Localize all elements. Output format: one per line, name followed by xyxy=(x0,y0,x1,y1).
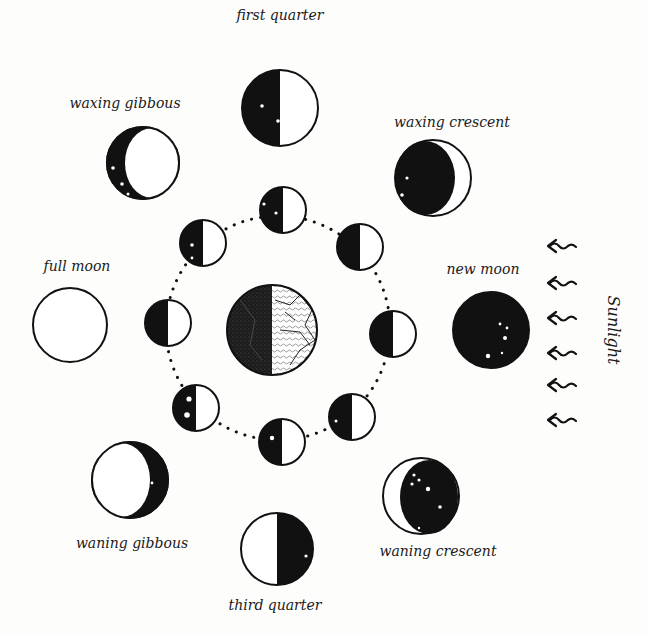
phase-waxing-gibbous: waxing gibbous xyxy=(69,95,180,199)
inner-moon-left xyxy=(145,300,191,346)
phase-waxing-crescent: waxing crescent xyxy=(394,114,510,216)
sunlight-arrows xyxy=(548,240,576,426)
phase-waning-crescent: waning crescent xyxy=(379,458,496,559)
inner-moon-bottom xyxy=(259,419,305,465)
label-sunlight: Sunlight xyxy=(604,296,623,365)
inner-moon-top-left xyxy=(180,220,226,266)
label-waning-crescent: waning crescent xyxy=(379,543,496,559)
label-first-quarter: first quarter xyxy=(236,7,325,23)
sunlight-arrow-icon xyxy=(548,277,576,289)
phase-full-moon: full moon xyxy=(33,258,110,362)
inner-moon-bottom-right xyxy=(329,394,375,440)
sunlight-arrow-icon xyxy=(548,347,576,359)
label-third-quarter: third quarter xyxy=(229,597,323,613)
label-waning-gibbous: waning gibbous xyxy=(76,535,188,551)
phase-waning-gibbous: waning gibbous xyxy=(76,442,188,551)
phase-third-quarter: third quarter xyxy=(229,513,323,613)
inner-moon-top-right xyxy=(337,224,383,270)
sunlight-arrow-icon xyxy=(548,379,576,391)
sunlight-arrow-icon xyxy=(548,240,576,252)
moon-phases-diagram: first quarter waxing gibbous waxing cres… xyxy=(0,0,647,635)
label-full-moon: full moon xyxy=(43,258,111,274)
earth xyxy=(227,285,317,375)
inner-moon-right xyxy=(370,311,416,357)
phase-new-moon: new moon xyxy=(447,261,529,368)
inner-moon-top xyxy=(260,187,306,233)
label-new-moon: new moon xyxy=(447,261,520,277)
phase-first-quarter: first quarter xyxy=(236,7,325,146)
inner-moon-bottom-left xyxy=(173,385,219,431)
label-waxing-crescent: waxing crescent xyxy=(394,114,510,130)
label-waxing-gibbous: waxing gibbous xyxy=(69,95,180,111)
sunlight-arrow-icon xyxy=(548,414,576,426)
sunlight-arrow-icon xyxy=(548,312,576,324)
